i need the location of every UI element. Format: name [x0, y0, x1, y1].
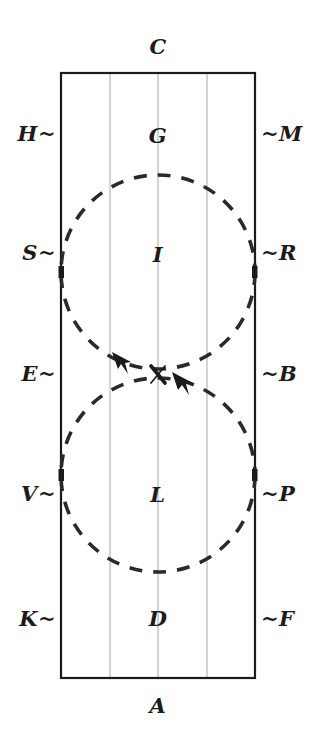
label-left-s: S~ — [22, 242, 56, 263]
label-interior-i: I — [153, 244, 163, 265]
tangent-tick-lower-right — [252, 469, 258, 481]
label-right-m: ~M — [261, 123, 303, 144]
label-top-c: C — [149, 36, 166, 57]
label-right-f: ~F — [261, 608, 295, 629]
label-right-p: ~P — [261, 483, 295, 504]
label-right-b: ~B — [261, 363, 297, 384]
label-interior-g: G — [149, 125, 167, 146]
label-interior-d: D — [149, 608, 168, 629]
diagram-canvas: C A H~ S~ E~ V~ K~ ~M ~R ~B ~P ~F G I L … — [0, 0, 321, 741]
label-interior-l: L — [150, 484, 165, 505]
tangent-tick-upper-left — [59, 266, 65, 278]
label-left-k: K~ — [19, 608, 56, 629]
label-left-v: V~ — [21, 483, 56, 504]
arrow-upper-left — [112, 352, 131, 374]
tangent-tick-upper-right — [252, 266, 258, 278]
label-right-r: ~R — [261, 242, 297, 263]
label-left-h: H~ — [18, 123, 56, 144]
label-left-e: E~ — [21, 363, 56, 384]
label-bottom-a: A — [150, 695, 167, 716]
tangent-tick-lower-left — [59, 469, 65, 481]
